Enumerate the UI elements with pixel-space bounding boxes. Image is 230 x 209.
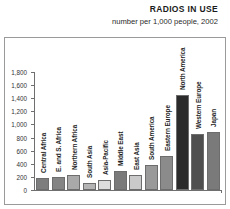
y-axis-line — [34, 72, 35, 190]
bar-group[interactable]: Asia-Pacific — [98, 72, 111, 190]
y-axis-tick-labels: 02004006008001,0001,2001,4001,6001,800 — [5, 38, 31, 206]
bar[interactable] — [145, 165, 158, 190]
bar-category-label: South Asia — [86, 146, 93, 178]
y-axis-tick-label: 1,200 — [11, 108, 27, 115]
bar-group[interactable]: Western Europe — [191, 72, 204, 190]
bar-group[interactable]: Central Africa — [36, 72, 49, 190]
bar-category-label: Japan — [210, 109, 217, 127]
y-axis-tick-mark — [31, 111, 34, 112]
bar-group[interactable]: South America — [145, 72, 158, 190]
bar[interactable] — [98, 180, 111, 190]
y-axis-tick-label: 1,400 — [11, 95, 27, 102]
bar-category-label: Middle East — [117, 132, 124, 166]
bar[interactable] — [191, 134, 204, 190]
bar[interactable] — [160, 156, 173, 190]
bars-area: Central AfricaE. and S. AfricaNorthern A… — [36, 72, 222, 190]
bar-group[interactable]: Middle East — [114, 72, 127, 190]
x-axis-end-tick — [221, 190, 222, 193]
y-axis-tick-mark — [31, 98, 34, 99]
bar-category-label: Central Africa — [39, 132, 46, 172]
bar-group[interactable]: E. and S. Africa — [52, 72, 65, 190]
y-axis-tick-mark — [31, 85, 34, 86]
bar-group[interactable]: East Asia — [129, 72, 142, 190]
y-axis-tick-label: 1,600 — [11, 82, 27, 89]
bar-category-label: North America — [179, 47, 186, 90]
y-axis-tick-label: 0 — [23, 187, 27, 194]
bar[interactable] — [114, 171, 127, 190]
bar-group[interactable]: Japan — [207, 72, 220, 190]
bar-group[interactable]: North America — [176, 72, 189, 190]
chart-header: RADIOS IN USE number per 1,000 people, 2… — [0, 4, 224, 27]
y-axis-tick-mark — [31, 72, 34, 73]
bar[interactable] — [83, 183, 96, 190]
y-axis-tick-label: 1,800 — [11, 69, 27, 76]
bar[interactable] — [129, 175, 142, 190]
bar[interactable] — [176, 95, 189, 190]
y-axis-tick-mark — [31, 164, 34, 165]
bar[interactable] — [52, 177, 65, 190]
bar-category-label: Western Europe — [194, 81, 201, 129]
y-axis-tick-mark — [31, 151, 34, 152]
page-title: RADIOS IN USE — [0, 4, 218, 15]
y-axis-tick-mark — [31, 190, 34, 191]
bar-category-label: E. and S. Africa — [55, 127, 62, 172]
y-axis-tick-mark — [31, 177, 34, 178]
y-axis-tick-label: 200 — [16, 173, 27, 180]
bar-category-label: Northern Africa — [70, 125, 77, 170]
bar[interactable] — [207, 132, 220, 190]
y-axis-tick-label: 800 — [16, 134, 27, 141]
y-axis-tick-label: 400 — [16, 160, 27, 167]
x-axis-line — [34, 190, 222, 191]
chart-subtitle: number per 1,000 people, 2002 — [0, 16, 218, 27]
radios-in-use-chart: RADIOS IN USE number per 1,000 people, 2… — [0, 0, 230, 209]
bar-category-label: Asia-Pacific — [101, 139, 108, 174]
bar[interactable] — [67, 175, 80, 190]
bar[interactable] — [36, 178, 49, 190]
y-axis-tick-mark — [31, 138, 34, 139]
plot-frame: 02004006008001,0001,2001,4001,6001,800 C… — [4, 37, 226, 205]
bar-category-label: Eastern Europe — [163, 105, 170, 151]
y-axis-tick-label: 1,000 — [11, 121, 27, 128]
bar-group[interactable]: Eastern Europe — [160, 72, 173, 190]
y-axis-tick-mark — [31, 124, 34, 125]
bar-category-label: East Asia — [132, 142, 139, 170]
bar-group[interactable]: South Asia — [83, 72, 96, 190]
y-axis-tick-label: 600 — [16, 147, 27, 154]
bar-category-label: South America — [148, 117, 155, 161]
bar-group[interactable]: Northern Africa — [67, 72, 80, 190]
